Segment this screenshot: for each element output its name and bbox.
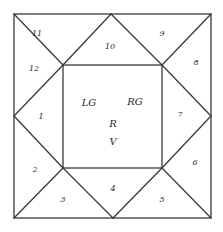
- edge-left-mid-bottom: [14, 116, 63, 168]
- triangle-label-7: 7: [177, 110, 183, 119]
- triangle-label-5: 5: [159, 195, 164, 204]
- inner-square: [63, 65, 162, 168]
- diagonal-bottom-right: [162, 168, 211, 218]
- triangle-label-9: 9: [159, 29, 164, 38]
- center-label-r: R: [108, 118, 117, 129]
- edge-top-mid-right: [111, 14, 162, 65]
- triangle-label-4: 4: [109, 184, 115, 193]
- edge-right-mid-bottom: [162, 116, 211, 168]
- center-label-v: V: [109, 136, 118, 147]
- edge-bottom-mid-left: [63, 168, 113, 218]
- edge-top-mid-left: [63, 14, 111, 65]
- edge-bottom-mid-right: [113, 168, 162, 218]
- edge-right-mid-top: [162, 65, 211, 116]
- diagonal-top-left: [14, 14, 63, 65]
- triangle-label-8: 8: [193, 58, 198, 67]
- triangle-label-12: 12: [29, 64, 39, 73]
- triangle-label-2: 2: [31, 165, 37, 174]
- triangle-label-3: 3: [60, 195, 65, 204]
- triangle-label-6: 6: [192, 158, 197, 167]
- diagonal-bottom-left: [14, 168, 63, 218]
- square-dissection-diagram: 123456789101112LGRGRV: [0, 0, 223, 232]
- triangle-label-1: 1: [38, 112, 43, 121]
- center-label-lg: LG: [81, 97, 97, 108]
- triangle-label-11: 11: [32, 29, 42, 38]
- center-label-rg: RG: [126, 96, 143, 107]
- triangle-label-10: 10: [105, 42, 115, 51]
- diagonal-top-right: [162, 14, 211, 65]
